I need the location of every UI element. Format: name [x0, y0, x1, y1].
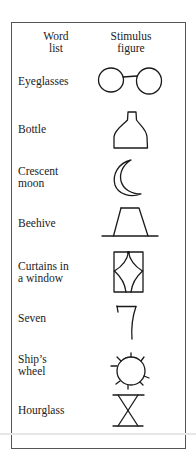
beehive-drawing-icon — [102, 208, 158, 236]
crescent-moon-drawing-icon — [114, 160, 141, 196]
seven-drawing-icon — [117, 306, 136, 339]
ships-wheel-drawing-icon — [111, 353, 149, 389]
eyeglasses-drawing-icon — [99, 68, 162, 94]
bottle-drawing-icon — [114, 112, 148, 148]
curtains-in-window-drawing-icon — [114, 252, 143, 292]
hourglass-drawing-icon — [113, 395, 144, 426]
